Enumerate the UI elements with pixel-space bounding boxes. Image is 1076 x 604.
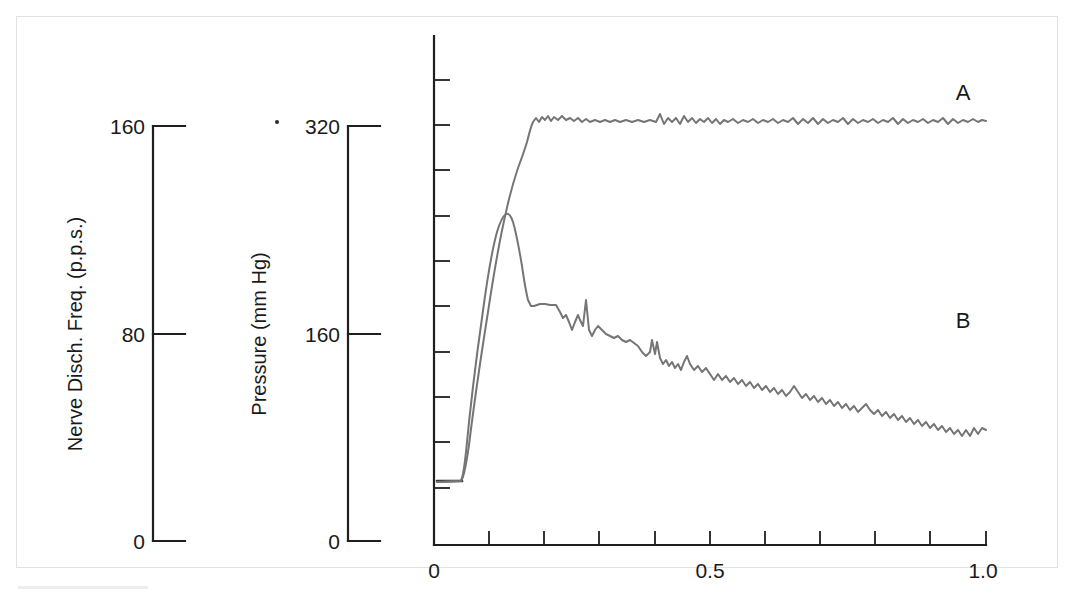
- curve-a-nerve-discharge: [437, 114, 986, 482]
- plot-axes-group: [434, 36, 986, 545]
- pressure-axis-title: Pressure (mm Hg): [248, 252, 270, 415]
- x-tick-label-0: 0: [428, 559, 440, 582]
- nerve-scale-group: [153, 126, 185, 541]
- pressure-tick-label-0: 0: [328, 530, 340, 553]
- curve-b-pressure: [437, 214, 986, 482]
- nerve-tick-label-80: 80: [122, 323, 145, 346]
- pressure-tick-label-320: 320: [305, 115, 340, 138]
- pressure-tick-label-160: 160: [305, 323, 340, 346]
- nerve-tick-label-160: 160: [110, 115, 145, 138]
- data-curves-group: [437, 114, 986, 482]
- plot-y-ticks: [434, 80, 450, 488]
- plot-x-ticks: [489, 531, 986, 545]
- x-tick-label-0.5: 0.5: [695, 559, 724, 582]
- pressure-scale-group: [348, 126, 380, 541]
- x-tick-label-1.0: 1.0: [968, 559, 997, 582]
- nerve-axis-title: Nerve Disch. Freq. (p.p.s.): [64, 217, 86, 452]
- figure-svg: 160 80 0 Nerve Disch. Freq. (p.p.s.) 320…: [0, 0, 1076, 604]
- nerve-tick-label-0: 0: [133, 530, 145, 553]
- series-label-b: B: [956, 308, 971, 333]
- figure-page: 160 80 0 Nerve Disch. Freq. (p.p.s.) 320…: [0, 0, 1076, 604]
- series-label-a: A: [956, 80, 971, 105]
